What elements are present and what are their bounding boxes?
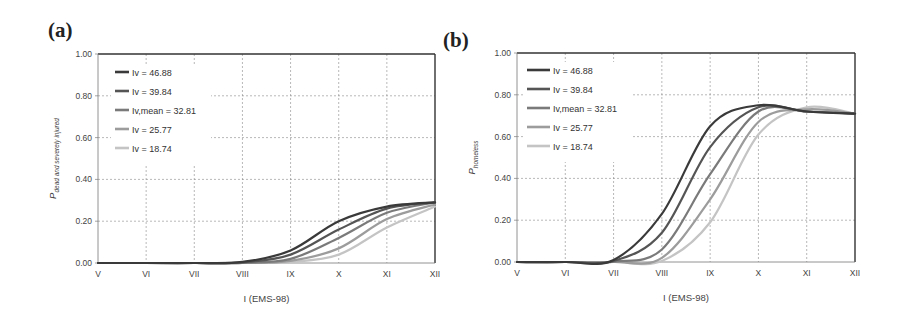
- y-axis-label: Phomeless: [466, 140, 479, 175]
- y-tick-label: 0.00: [494, 257, 511, 267]
- x-tick-label: V: [514, 268, 520, 278]
- x-tick-label: IX: [706, 268, 714, 278]
- legend-label: Iv = 46.88: [553, 66, 593, 76]
- y-tick-label: 0.60: [494, 132, 511, 142]
- x-tick-label: VI: [561, 268, 569, 278]
- y-tick-label: 0.80: [494, 90, 511, 100]
- y-tick-label: 0.40: [494, 173, 511, 183]
- x-tick-label: X: [756, 268, 762, 278]
- chart-b-homeless: 0.000.200.400.600.801.00VVIVIIVIIIIXXXIX…: [0, 0, 905, 312]
- x-tick-label: XI: [803, 268, 811, 278]
- y-tick-label: 1.00: [494, 48, 511, 58]
- x-tick-label: VIII: [655, 268, 668, 278]
- x-tick-label: XII: [850, 268, 860, 278]
- legend-label: Iv,mean = 32.81: [553, 104, 617, 114]
- legend-label: Iv = 18.74: [553, 142, 593, 152]
- legend-label: Iv = 39.84: [553, 85, 593, 95]
- x-axis-label: I (EMS-98): [663, 292, 709, 303]
- legend-label: Iv = 25.77: [553, 123, 593, 133]
- x-tick-label: VII: [608, 268, 618, 278]
- y-tick-label: 0.20: [494, 215, 511, 225]
